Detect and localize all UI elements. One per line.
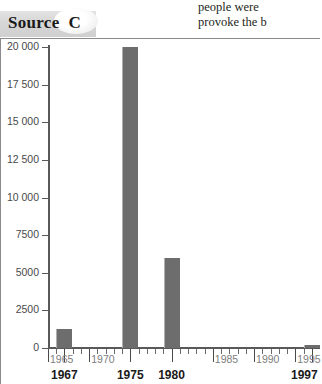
x-axis-bold-label: 1975 [117,368,144,382]
y-axis-tick-label: 5000 [16,266,39,278]
x-axis-tick [81,349,82,354]
bar-1980 [164,258,180,348]
x-axis-tick-label: 1965 [50,353,73,365]
x-axis-tick [188,349,189,354]
y-axis-tick-label: 15 000 [7,115,39,127]
x-axis-tick [172,349,173,362]
x-axis-tick [130,349,131,362]
y-axis-tick [42,235,49,236]
x-axis-bold-label: 1997 [291,368,318,382]
y-axis-tick-label: 0 [33,341,39,353]
x-axis-bold-label: 1980 [158,368,185,382]
x-axis-tick [295,349,296,362]
bar-1975 [122,47,138,348]
y-axis-tick [42,85,49,86]
x-axis-tick [196,349,197,354]
x-axis-tick [213,349,214,362]
x-axis-tick [246,349,247,354]
y-axis-tick-label: 10 000 [7,191,39,203]
x-axis-bold-label: 1967 [51,368,78,382]
x-axis-tick [155,349,156,354]
x-axis-tick [147,349,148,354]
bar-1997 [304,345,320,348]
y-axis-tick-label: 12 500 [7,153,39,165]
y-axis-tick [42,122,49,123]
y-axis-tick-label: 20 000 [7,40,39,52]
y-axis-tick [42,47,49,48]
x-axis-tick-label: 1995 [297,353,320,365]
x-axis-tick [122,349,123,354]
x-axis-tick [48,349,49,362]
y-axis-tick [42,198,49,199]
y-axis-tick-label: 7500 [16,228,39,240]
x-axis-tick [205,349,206,354]
x-axis-tick-label: 1990 [256,353,279,365]
x-axis-tick-label: 1985 [215,353,238,365]
x-axis-tick [163,349,164,354]
x-axis-tick [180,349,181,354]
x-axis-tick-label: 1970 [91,353,114,365]
x-axis-tick [254,349,255,362]
y-axis-tick [42,273,49,274]
y-axis-tick [42,310,49,311]
x-axis-tick [287,349,288,354]
x-axis-tick [89,349,90,362]
y-axis-tick-label: 17 500 [7,78,39,90]
y-axis-tick-label: 2500 [16,303,39,315]
bar-1967 [56,329,72,348]
x-axis-tick [139,349,140,354]
y-axis-tick [42,160,49,161]
